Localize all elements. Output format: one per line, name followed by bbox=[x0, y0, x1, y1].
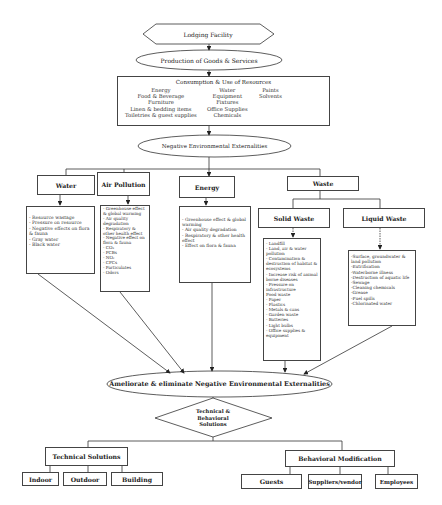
waste-category-box: Waste bbox=[287, 176, 359, 191]
externalities-node: Negative Environmental Externalities bbox=[138, 135, 291, 157]
behavioral-modification-box: Behavioral Modification bbox=[285, 450, 395, 467]
decision-node: Technical & Behavioral Solutions bbox=[185, 404, 241, 432]
technical-solutions-box: Technical Solutions bbox=[45, 447, 128, 466]
indoor-box: Indoor bbox=[22, 472, 59, 486]
production-label: Production of Goods & Services bbox=[161, 57, 258, 64]
ameliorate-node: Ameliorate & eliminate Negative Environm… bbox=[107, 371, 332, 397]
building-box: Building bbox=[111, 472, 163, 486]
lodging-facility-node: Lodging Facility bbox=[156, 24, 260, 44]
lodging-facility-label: Lodging Facility bbox=[183, 31, 232, 38]
waste-type-item: - Office supplies & equipment bbox=[266, 328, 318, 338]
air-pollution-category-box: Air Pollution bbox=[97, 172, 150, 196]
liquid-waste-box: Liquid Waste bbox=[343, 208, 425, 228]
effect-item: - Contamination & destruction of habitat… bbox=[266, 256, 318, 271]
effect-item: - Greenhouse effect & global warming bbox=[182, 217, 248, 227]
effect-item: -Surface, groundwater & land pollution bbox=[351, 254, 413, 264]
resource-item: Office Supplies bbox=[207, 106, 248, 112]
ameliorate-label: Ameliorate & eliminate Negative Environm… bbox=[109, 380, 330, 388]
energy-category-box: Energy bbox=[179, 176, 235, 198]
resource-column-2: Water Equipment Fixtures Office Supplies… bbox=[207, 87, 248, 118]
resource-item: Solvents bbox=[259, 93, 282, 99]
decision-label: Technical & Behavioral Solutions bbox=[185, 408, 241, 428]
effect-item: - Black water bbox=[29, 242, 92, 247]
suppliers-vendor-label: Suppliers/vendor bbox=[308, 479, 361, 485]
resource-column-1: Energy Food & Beverage Furniture Linen &… bbox=[125, 87, 197, 118]
outdoor-box: Outdoor bbox=[63, 472, 107, 486]
liquid-waste-label: Liquid Waste bbox=[361, 215, 406, 222]
consumption-box: Consumption & Use of Resources Energy Fo… bbox=[117, 76, 330, 126]
energy-effects-box: - Greenhouse effect & global warming - A… bbox=[179, 206, 251, 283]
production-node: Production of Goods & Services bbox=[136, 50, 282, 70]
water-effects-box: - Resource wastage - Pressure on resourc… bbox=[26, 206, 95, 274]
guests-box: Guests bbox=[241, 474, 302, 489]
behavioral-modification-label: Behavioral Modification bbox=[298, 455, 381, 462]
effect-item: -Chlorinated water bbox=[351, 301, 413, 306]
technical-solutions-label: Technical Solutions bbox=[53, 453, 121, 460]
effect-item: - Effect on flora & fauna bbox=[182, 243, 248, 248]
solid-waste-effects-box: - Landfill - Land, air & water pollution… bbox=[263, 238, 321, 361]
air-pollution-effects-box: - Greenhouse effect & global warming - A… bbox=[100, 205, 150, 292]
effect-item: - Pressure on infrastructure bbox=[266, 282, 318, 292]
liquid-waste-effects-box: -Surface, groundwater & land pollution -… bbox=[348, 250, 416, 326]
pollutant-item: - Odors bbox=[103, 271, 147, 276]
waste-label: Waste bbox=[313, 180, 334, 187]
building-label: Building bbox=[122, 476, 152, 483]
air-pollution-label: Air Pollution bbox=[101, 181, 145, 188]
effect-item: - Negative effects on flora & fauna bbox=[29, 226, 92, 237]
effect-item: - Respiratory & other health effect bbox=[182, 233, 248, 243]
resource-item: Linen & bedding items bbox=[125, 106, 197, 112]
water-label: Water bbox=[56, 182, 76, 189]
externalities-label: Negative Environmental Externalities bbox=[162, 143, 267, 149]
employees-label: Employees bbox=[380, 479, 413, 485]
effect-item: - Increase risk of animal borne diseases bbox=[266, 272, 318, 282]
solid-waste-label: Solid Waste bbox=[274, 215, 314, 222]
water-category-box: Water bbox=[37, 175, 95, 195]
resource-item: Toiletries & guest supplies bbox=[125, 112, 197, 118]
energy-label: Energy bbox=[195, 184, 219, 191]
employees-box: Employees bbox=[375, 474, 418, 489]
resource-column-3: Paints Solvents bbox=[259, 87, 282, 99]
outdoor-label: Outdoor bbox=[71, 476, 100, 483]
effect-item: - Land, air & water pollution bbox=[266, 246, 318, 256]
solid-waste-box: Solid Waste bbox=[258, 208, 330, 228]
guests-label: Guests bbox=[260, 478, 284, 485]
indoor-label: Indoor bbox=[29, 476, 52, 483]
suppliers-vendor-box: Suppliers/vendor bbox=[308, 474, 362, 489]
consumption-title: Consumption & Use of Resources bbox=[118, 79, 329, 85]
resource-item: Chemicals bbox=[207, 112, 248, 118]
